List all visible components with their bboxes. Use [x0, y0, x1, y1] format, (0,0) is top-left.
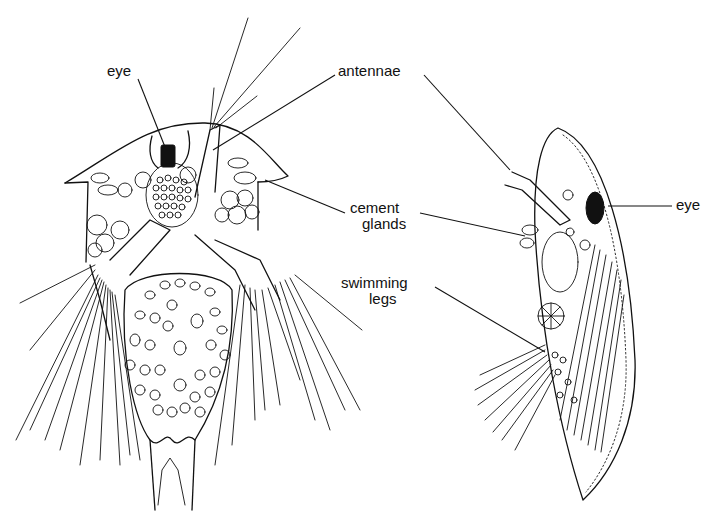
label-antennae: antennae — [338, 63, 401, 79]
label-swimming-legs-line1: swimming — [341, 275, 408, 291]
label-cement-glands-line2: glands — [362, 216, 406, 232]
nauplius-drawing — [16, 18, 362, 510]
cypris-drawing — [475, 128, 635, 500]
label-cement-glands-line1: cement — [350, 200, 399, 216]
label-swimming-legs-line2: legs — [369, 291, 397, 307]
label-cypris-eye: eye — [676, 197, 700, 213]
label-nauplius-eye: eye — [107, 63, 131, 79]
